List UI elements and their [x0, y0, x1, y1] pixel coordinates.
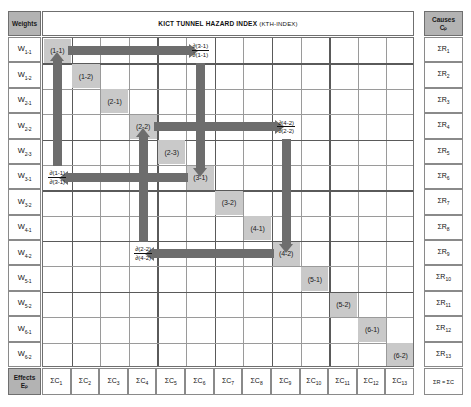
- causes-subscript: 13: [445, 353, 451, 359]
- partial-derivative-label: ∂(4-2)∂(2-2): [273, 115, 300, 138]
- causes-cell[interactable]: ΣR12: [424, 316, 463, 341]
- diagonal-factor-cell[interactable]: (5-1): [301, 267, 328, 291]
- diagonal-factor-cell[interactable]: (2-3): [158, 140, 185, 164]
- causes-cell[interactable]: ΣR1: [424, 37, 463, 62]
- effects-label: ΣC3: [107, 377, 119, 386]
- weight-cell[interactable]: W4-2: [8, 240, 41, 265]
- effects-cell[interactable]: ΣC3: [99, 368, 128, 395]
- weight-subscript: 2-2: [25, 125, 32, 131]
- partial-derivative-label: ∂(1-1)∂(3-1): [44, 166, 71, 189]
- grid-line-horizontal: [43, 343, 414, 344]
- derivative-numerator: ∂(3-1): [192, 43, 210, 51]
- effects-label: ΣC11: [335, 377, 350, 386]
- weight-subscript: 2-1: [25, 100, 32, 106]
- causes-subscript: 9: [447, 251, 450, 257]
- causes-subscript: 12: [445, 328, 451, 334]
- diagonal-factor-cell[interactable]: (1-2): [72, 64, 99, 88]
- effects-subscript: 13: [402, 380, 408, 386]
- effects-label: ΣC13: [392, 377, 407, 386]
- causes-cell[interactable]: ΣR3: [424, 88, 463, 113]
- weight-cell[interactable]: W3-1: [8, 164, 41, 189]
- effects-subscript: 4: [145, 380, 148, 386]
- effects-cell[interactable]: ΣC4: [128, 368, 157, 395]
- diagonal-factor-cell[interactable]: (6-1): [358, 318, 385, 342]
- weight-cell[interactable]: W2-2: [8, 113, 41, 138]
- total-sum-cell: ΣR = ΣC: [424, 368, 463, 395]
- causes-subscript: 5: [447, 150, 450, 156]
- arrow-head-down: [193, 168, 207, 177]
- causes-subscript: 1: [447, 48, 450, 54]
- causes-header-symbol: Cₚ: [440, 24, 448, 31]
- causes-cell[interactable]: ΣR2: [424, 62, 463, 87]
- arrow-shaft: [154, 249, 274, 258]
- effects-cell[interactable]: ΣC11: [328, 368, 357, 395]
- effects-label: ΣC5: [165, 377, 177, 386]
- derivative-numerator: ∂(4-2): [277, 120, 295, 128]
- grid-line-horizontal: [43, 165, 414, 166]
- effects-subscript: 5: [174, 380, 177, 386]
- effects-cell[interactable]: ΣC5: [156, 368, 185, 395]
- grid-line-horizontal: [43, 292, 414, 293]
- effects-cell[interactable]: ΣC6: [185, 368, 214, 395]
- weight-cell[interactable]: W6-2: [8, 342, 41, 367]
- diagonal-factor-cell[interactable]: (2-1): [101, 89, 128, 113]
- effects-cell[interactable]: ΣC13: [385, 368, 414, 395]
- diagonal-factor-cell[interactable]: (6-2): [387, 343, 414, 367]
- weight-subscript: 4-1: [25, 227, 32, 233]
- weight-cell[interactable]: W6-1: [8, 316, 41, 341]
- weight-cell[interactable]: W1-2: [8, 62, 41, 87]
- weight-label: W6-2: [18, 349, 32, 360]
- causes-cell[interactable]: ΣR10: [424, 265, 463, 290]
- weight-cell[interactable]: W1-1: [8, 37, 41, 62]
- weight-label: W2-1: [18, 95, 32, 106]
- weight-cell[interactable]: W5-1: [8, 265, 41, 290]
- diagonal-factor-cell[interactable]: (4-1): [244, 216, 271, 240]
- effects-subscript: 6: [203, 380, 206, 386]
- derivative-denominator: ∂(3-1): [48, 178, 66, 185]
- causes-label: ΣR9: [437, 248, 449, 257]
- causes-label: ΣR13: [436, 350, 451, 359]
- causes-cell[interactable]: ΣR7: [424, 189, 463, 214]
- causes-cell[interactable]: ΣR13: [424, 342, 463, 367]
- weight-cell[interactable]: W3-2: [8, 189, 41, 214]
- arrow-shaft: [53, 61, 62, 166]
- effects-cell[interactable]: ΣC10: [300, 368, 329, 395]
- effects-cell[interactable]: ΣC1: [42, 368, 71, 395]
- effects-label: ΣC9: [279, 377, 291, 386]
- weight-subscript: 3-2: [25, 201, 32, 207]
- effects-cell[interactable]: ΣC12: [357, 368, 386, 395]
- weight-label: W3-2: [18, 197, 32, 208]
- weight-subscript: 5-2: [25, 303, 32, 309]
- diagonal-factor-cell[interactable]: (3-2): [215, 191, 242, 215]
- effects-header-cell: Effects Eₚ: [8, 368, 41, 395]
- effects-subscript: 9: [289, 380, 292, 386]
- causes-label: ΣR8: [437, 223, 449, 232]
- derivative-numerator: ∂(1-1): [48, 170, 66, 178]
- causes-cell[interactable]: ΣR6: [424, 164, 463, 189]
- effects-cell[interactable]: ΣC7: [214, 368, 243, 395]
- weight-label: W4-2: [18, 248, 32, 259]
- causes-cell[interactable]: ΣR5: [424, 139, 463, 164]
- effects-cell[interactable]: ΣC9: [271, 368, 300, 395]
- effects-cell[interactable]: ΣC2: [71, 368, 100, 395]
- weights-header-cell: Weights: [8, 11, 41, 36]
- causes-header-cell: Causes Cₚ: [424, 11, 463, 36]
- weight-cell[interactable]: W5-2: [8, 291, 41, 316]
- causes-cell[interactable]: ΣR11: [424, 291, 463, 316]
- weight-cell[interactable]: W2-1: [8, 88, 41, 113]
- weight-subscript: 6-2: [25, 354, 32, 360]
- grid-line-horizontal: [43, 216, 414, 217]
- causes-cell[interactable]: ΣR9: [424, 240, 463, 265]
- weight-cell[interactable]: W2-3: [8, 139, 41, 164]
- grid-line-horizontal: [43, 89, 414, 90]
- effects-cell[interactable]: ΣC8: [242, 368, 271, 395]
- effects-subscript: 12: [373, 380, 379, 386]
- weight-cell[interactable]: W4-1: [8, 215, 41, 240]
- effects-label: ΣC1: [50, 377, 62, 386]
- causes-cell[interactable]: ΣR4: [424, 113, 463, 138]
- weight-subscript: 1-1: [25, 49, 32, 55]
- effects-label: ΣC8: [251, 377, 263, 386]
- diagonal-factor-cell[interactable]: (5-2): [330, 293, 357, 317]
- arrow-shaft: [196, 63, 205, 168]
- causes-cell[interactable]: ΣR8: [424, 215, 463, 240]
